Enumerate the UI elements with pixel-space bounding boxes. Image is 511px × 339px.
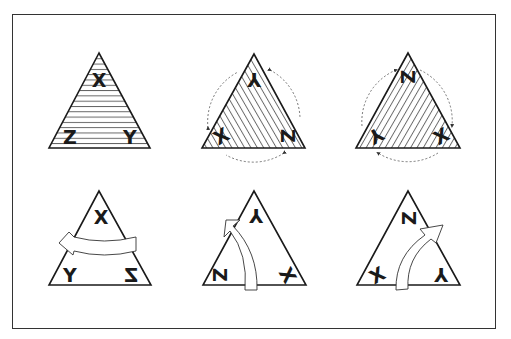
vertex-label-left: Y	[62, 264, 77, 286]
symmetry-diagram: X Z Y Y X Z Z Y X X Y Z Y Z X	[0, 0, 511, 339]
vertex-label-apex: Y	[249, 205, 264, 227]
vertex-label-right-mirrored: Z	[124, 264, 138, 286]
panel-reflect-vertical: X Y Z	[49, 191, 151, 286]
panel-reflect-right: Z X Y	[357, 191, 460, 290]
vertex-label-left: Z	[63, 126, 77, 148]
vertex-label-apex: Z	[398, 211, 420, 225]
panel-reflect-left: Y Z X	[203, 191, 306, 290]
vertex-label-apex: Z	[397, 70, 419, 84]
vertex-label-left: Z	[209, 268, 231, 282]
vertex-label-apex: X	[94, 206, 109, 228]
vertex-label-right: Y	[434, 264, 449, 286]
panel-identity: X Z Y	[40, 50, 160, 150]
panel-rotate-counterclockwise: Z Y X	[350, 50, 470, 162]
rotation-arrow-dashed	[378, 153, 438, 162]
panel-rotate-clockwise: Y X Z	[195, 50, 315, 162]
vertex-label-apex: Y	[247, 69, 262, 91]
vertex-label-apex: X	[92, 69, 107, 91]
vertex-label-right: Y	[122, 126, 137, 148]
vertex-label-right: Z	[277, 129, 299, 143]
rotation-arrow-dashed	[226, 153, 284, 162]
horizontal-hatch	[40, 50, 160, 150]
